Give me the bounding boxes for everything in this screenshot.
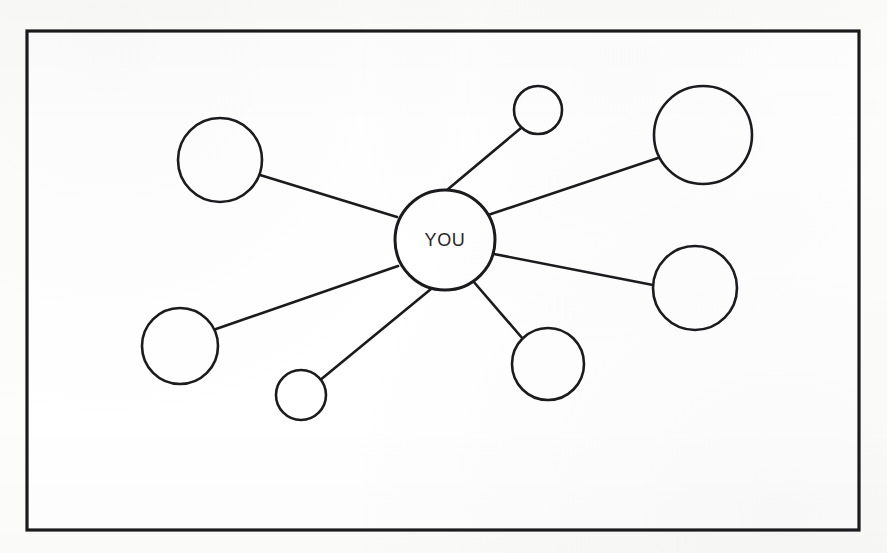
node-right[interactable] (653, 246, 737, 330)
node-top-right[interactable] (654, 86, 752, 184)
center-node-you-label: YOU (425, 230, 466, 250)
network-diagram: YOU (0, 0, 887, 553)
node-top-small[interactable] (514, 86, 562, 134)
node-left[interactable] (142, 308, 218, 384)
center-node-group: YOU (395, 190, 495, 290)
node-bottom-small[interactable] (276, 370, 326, 420)
node-bottom-right[interactable] (512, 328, 584, 400)
diagram-page: YOU (0, 0, 887, 553)
node-top-left[interactable] (178, 118, 262, 202)
